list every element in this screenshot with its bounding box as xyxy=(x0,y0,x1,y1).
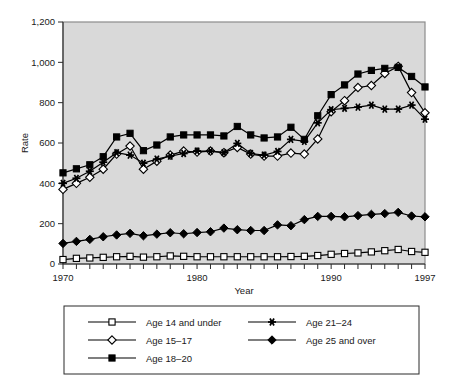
data-point xyxy=(73,166,79,172)
data-point xyxy=(355,250,361,256)
data-point xyxy=(248,132,254,138)
data-point xyxy=(221,133,227,139)
y-tick-label: 800 xyxy=(39,97,55,108)
data-point xyxy=(154,254,160,260)
data-point xyxy=(207,132,213,138)
data-point xyxy=(207,254,213,260)
data-point xyxy=(194,254,200,260)
data-point xyxy=(127,253,133,259)
data-point xyxy=(274,254,280,260)
data-point xyxy=(60,170,66,176)
data-point xyxy=(167,134,173,140)
data-point xyxy=(382,248,388,254)
data-point xyxy=(422,84,428,90)
y-tick-label: 400 xyxy=(39,178,55,189)
data-point xyxy=(288,124,294,130)
data-point xyxy=(395,246,401,252)
plot-area-background xyxy=(63,22,425,264)
data-point xyxy=(114,254,120,260)
data-point xyxy=(154,142,160,148)
chart-figure: 02004006008001,0001,200 1970198019901997… xyxy=(0,0,456,384)
data-point xyxy=(87,162,93,168)
data-point xyxy=(368,249,374,255)
data-point xyxy=(181,132,187,138)
data-point xyxy=(234,254,240,260)
x-tick-label: 1980 xyxy=(187,272,208,283)
x-tick-label: 1970 xyxy=(52,272,73,283)
data-point xyxy=(315,113,321,119)
x-axis-title: Year xyxy=(234,285,253,296)
data-point xyxy=(248,254,254,260)
data-point xyxy=(315,252,321,258)
data-point xyxy=(382,65,388,71)
data-point xyxy=(408,73,414,79)
data-point xyxy=(368,67,374,73)
x-tick-label: 1990 xyxy=(321,272,342,283)
data-point xyxy=(140,148,146,154)
data-point xyxy=(60,256,66,262)
data-point xyxy=(221,254,227,260)
y-tick-label: 600 xyxy=(39,137,55,148)
data-point xyxy=(288,253,294,259)
legend-label: Age 14 and under xyxy=(146,317,222,328)
data-point xyxy=(274,134,280,140)
legend-marker-open-square xyxy=(109,319,115,325)
y-tick-label: 1,200 xyxy=(31,16,55,27)
y-tick-label: 200 xyxy=(39,218,55,229)
legend-label: Age 25 and over xyxy=(306,335,376,346)
data-point xyxy=(301,253,307,259)
data-point xyxy=(194,132,200,138)
data-point xyxy=(395,64,401,70)
data-point xyxy=(100,254,106,260)
legend-marker-solid-square xyxy=(109,355,115,361)
data-point xyxy=(261,254,267,260)
legend-label: Age 15–17 xyxy=(146,335,192,346)
data-point xyxy=(73,255,79,261)
data-point xyxy=(341,82,347,88)
data-point xyxy=(167,253,173,259)
data-point xyxy=(181,253,187,259)
data-point xyxy=(140,254,146,260)
data-point xyxy=(261,135,267,141)
line-chart: 02004006008001,0001,200 1970198019901997… xyxy=(0,0,456,384)
y-tick-label: 1,000 xyxy=(31,57,55,68)
y-tick-label: 0 xyxy=(50,258,55,269)
data-point xyxy=(234,123,240,129)
data-point xyxy=(328,92,334,98)
legend-label: Age 18–20 xyxy=(146,353,192,364)
data-point xyxy=(328,251,334,257)
data-point xyxy=(114,134,120,140)
y-axis-title: Rate xyxy=(19,133,30,153)
x-tick-label: 1997 xyxy=(414,272,435,283)
legend-label: Age 21–24 xyxy=(306,317,352,328)
data-point xyxy=(355,71,361,77)
data-point xyxy=(422,249,428,255)
data-point xyxy=(408,248,414,254)
data-point xyxy=(87,255,93,261)
data-point xyxy=(341,250,347,256)
data-point xyxy=(127,130,133,136)
